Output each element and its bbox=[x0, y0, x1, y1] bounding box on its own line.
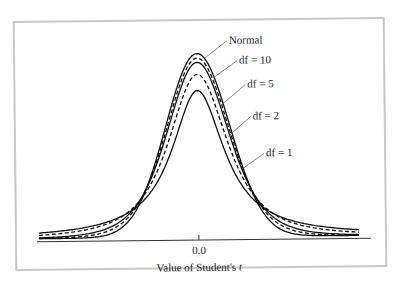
x-axis-title: Value of Student's t bbox=[156, 261, 242, 274]
curve-df10 bbox=[37, 56, 359, 238]
curve-df1 bbox=[37, 89, 358, 233]
label-df5: df = 5 bbox=[247, 77, 274, 89]
label-df1: df = 1 bbox=[266, 146, 292, 158]
label-df10: df = 10 bbox=[239, 53, 271, 65]
x-axis-line bbox=[37, 238, 371, 241]
label-normal: Normal bbox=[229, 33, 263, 45]
curve-df2 bbox=[37, 73, 359, 236]
curve-normal bbox=[37, 52, 359, 239]
density-curves bbox=[37, 52, 359, 239]
label-df2: df = 2 bbox=[253, 109, 279, 121]
chart-stage: Normal df = 10 df = 5 df = 2 df = 1 0.0 … bbox=[0, 0, 404, 303]
x-tick-label: 0.0 bbox=[192, 244, 206, 256]
curve-df5 bbox=[37, 61, 359, 238]
chart-plot: Normal df = 10 df = 5 df = 2 df = 1 0.0 … bbox=[0, 0, 404, 303]
